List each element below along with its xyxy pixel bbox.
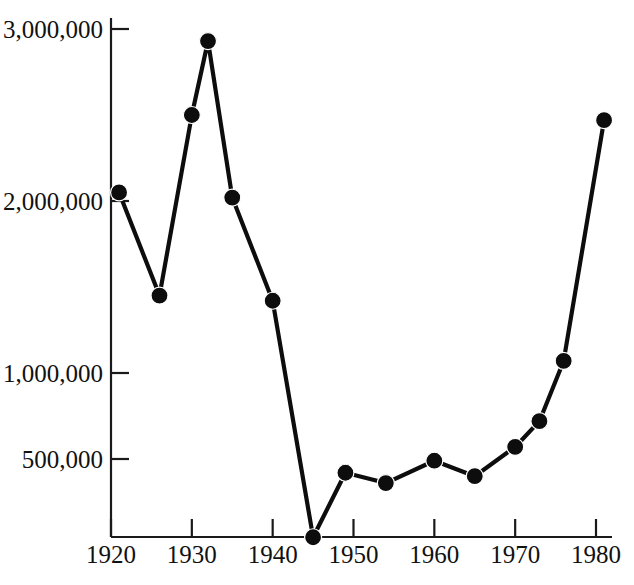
data-point-marker: [151, 287, 168, 304]
data-point-marker: [224, 189, 241, 206]
y-tick-label: 1,000,000: [3, 360, 103, 387]
line-chart: 500,0001,000,0002,000,0003,000,000 19201…: [0, 0, 634, 585]
data-point-marker: [466, 468, 483, 485]
data-point-marker: [337, 464, 354, 481]
data-point-marker: [264, 292, 281, 309]
y-tick-label: 500,000: [22, 446, 103, 473]
data-point-marker: [426, 452, 443, 469]
x-tick-label: 1940: [248, 541, 298, 568]
data-point-marker: [183, 107, 200, 124]
chart-page: 500,0001,000,0002,000,0003,000,000 19201…: [0, 0, 634, 585]
data-point-marker: [111, 184, 128, 201]
data-point-marker: [555, 352, 572, 369]
x-tick-label: 1950: [329, 541, 379, 568]
y-tick-label: 3,000,000: [3, 16, 103, 43]
data-point-marker: [596, 112, 613, 129]
data-point-marker: [531, 413, 548, 430]
y-tick-label: 2,000,000: [3, 188, 103, 215]
x-tick-label: 1980: [571, 541, 621, 568]
data-point-marker: [200, 33, 217, 50]
x-tick-label: 1970: [490, 541, 540, 568]
x-tick-label: 1930: [167, 541, 217, 568]
x-tick-label: 1960: [409, 541, 459, 568]
data-point-marker: [305, 529, 322, 546]
chart-background: [0, 0, 634, 585]
data-point-marker: [377, 475, 394, 492]
data-point-marker: [507, 438, 524, 455]
x-tick-label: 1920: [86, 541, 136, 568]
